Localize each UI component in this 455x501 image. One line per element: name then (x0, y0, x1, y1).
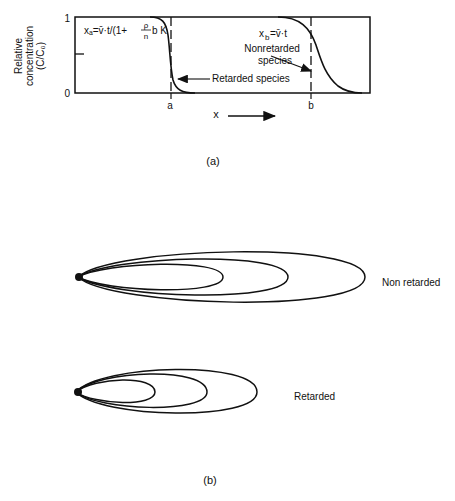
retarded-label: Retarded (294, 391, 335, 402)
svg-text:n: n (144, 32, 148, 41)
svg-text:(C/C₀): (C/C₀) (35, 42, 46, 70)
svg-text:xₐ=v̄·t/(1+: xₐ=v̄·t/(1+ (84, 25, 127, 36)
caption-b: (b) (203, 474, 216, 486)
figure-canvas: Relative concentration (C/C₀) 1 0 xₐ=v̄·… (0, 0, 455, 501)
source-point-retarded (74, 388, 82, 396)
x-tick-a: a (167, 100, 173, 111)
nonretarded-species-label-2: species (258, 55, 292, 66)
caption-a: (a) (206, 155, 219, 167)
panel-b: Non retarded Retarded (b) (74, 252, 440, 486)
svg-text:Relative: Relative (13, 38, 24, 75)
svg-text:concentration: concentration (24, 26, 35, 86)
nonretarded-species-label: Nonretarded (244, 43, 300, 54)
svg-text:ρ: ρ (144, 21, 149, 30)
nonretarded-label: Non retarded (382, 277, 440, 288)
svg-text:=v̄·t: =v̄·t (270, 28, 287, 39)
retarded-species-label: Retarded species (212, 73, 290, 84)
svg-text:b K: b K (152, 25, 167, 36)
x-tick-b: b (308, 100, 314, 111)
retarded-plumes (76, 369, 257, 413)
panel-a: Relative concentration (C/C₀) 1 0 xₐ=v̄·… (13, 13, 370, 167)
equation-xa: xₐ=v̄·t/(1+ ρ n b K (84, 21, 167, 41)
svg-text:x: x (259, 28, 264, 39)
source-point-nonretarded (75, 273, 83, 281)
equation-xb: x b =v̄·t (259, 28, 287, 42)
y-axis-label: Relative concentration (C/C₀) (13, 26, 46, 86)
nonretarded-plumes (78, 252, 365, 302)
plume-small (78, 264, 223, 290)
y-tick-0: 0 (64, 88, 70, 99)
x-axis-label: x (213, 108, 219, 120)
y-tick-1: 1 (64, 13, 70, 24)
